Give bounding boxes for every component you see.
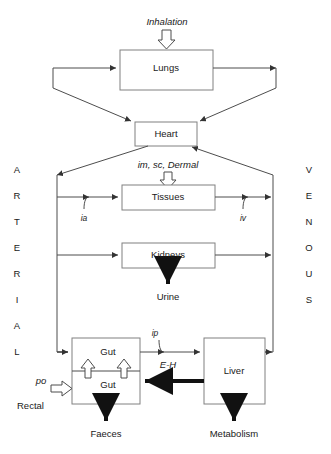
po-label: po [35, 375, 47, 386]
venous-letter: N [306, 216, 313, 227]
gut-lower-label: Gut [100, 379, 116, 390]
ip-label: ip [152, 328, 159, 338]
kidneys-label: Kidneys [151, 249, 185, 260]
venous-letter: E [306, 190, 312, 201]
arterial-letter: A [14, 320, 21, 331]
im-sc-dermal-label: im, sc, Dermal [138, 159, 200, 170]
arterial-letter: E [14, 242, 20, 253]
inhalation-label: Inhalation [146, 16, 187, 27]
liver-label: Liver [224, 365, 245, 376]
arterial-letter: I [16, 294, 19, 305]
heart-label: Heart [154, 128, 178, 139]
venous-letter: V [306, 164, 313, 175]
urine-label: Urine [157, 291, 180, 302]
venous-letter: S [306, 294, 312, 305]
tissues-label: Tissues [152, 191, 185, 202]
lungs-label: Lungs [153, 62, 179, 73]
venous-letter: O [305, 242, 312, 253]
pk-flow-diagram: Inhalation Lungs Heart im, sc, Dermal Ti… [0, 0, 331, 454]
arterial-letter: T [14, 216, 20, 227]
arterial-letter: R [14, 268, 21, 279]
ia-label: ia [81, 213, 88, 223]
arterial-letter: R [14, 190, 21, 201]
eh-label: E-H [160, 359, 177, 370]
gut-upper-label: Gut [100, 346, 116, 357]
arterial-letter: A [14, 164, 21, 175]
venous-letter: U [306, 268, 313, 279]
arterial-letter: L [14, 346, 19, 357]
iv-label: iv [240, 213, 247, 223]
rectal-label: Rectal [17, 400, 44, 411]
metabolism-label: Metabolism [210, 428, 259, 439]
faeces-label: Faeces [90, 428, 121, 439]
